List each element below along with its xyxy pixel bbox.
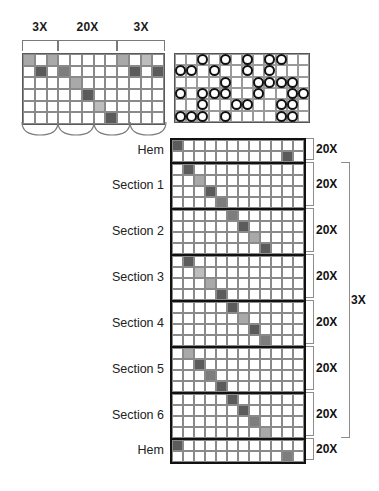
- circle-icon-r6-c10: [276, 111, 287, 122]
- swatch-cell-r2-c11: [141, 66, 153, 78]
- repeat-label-8: 20X: [316, 442, 337, 456]
- chart-cell-b1-r2-c2: [183, 151, 194, 162]
- circle-empty-cell-r5-c1: [175, 99, 186, 110]
- circle-empty-cell-r1-c6: [231, 54, 242, 65]
- repeat-label-1: 20X: [316, 142, 337, 156]
- chart-cell-b2-r1-c12: [293, 164, 304, 175]
- circle-icon-r3-c5: [220, 77, 231, 88]
- chart-cell-b6-r4-c7: [238, 381, 249, 392]
- swatch-cell-r1-c9: [117, 54, 129, 66]
- chart-cell-b4-r1-c10: [271, 256, 282, 267]
- chart-cell-b7-r3-c8: [249, 416, 260, 427]
- chart-band-section-6: Section 6: [170, 392, 306, 438]
- circle-empty-cell-r4-c2: [186, 88, 197, 99]
- chart-cell-b5-r1-c9: [260, 302, 271, 313]
- swatch-cell-r1-c6: [82, 54, 94, 66]
- chart-cell-b6-r2-c10: [271, 359, 282, 370]
- chart-cell-b5-r4-c12: [293, 335, 304, 346]
- swatch-cell-r4-c10: [129, 89, 141, 101]
- chart-cell-b4-r3-c2: [183, 278, 194, 289]
- chart-cell-b2-r1-c2: [183, 164, 194, 175]
- chart-cell-b5-r3-c10: [271, 324, 282, 335]
- circle-empty-cell-r2-c8: [253, 65, 264, 76]
- chart-cell-b7-r2-c5: [216, 405, 227, 416]
- chart-cell-b6-r2-c3: [194, 359, 205, 370]
- chart-cell-b6-r1-c8: [249, 348, 260, 359]
- chart-cell-b4-r3-c3: [194, 278, 205, 289]
- chart-cell-b8-r1-c8: [249, 440, 260, 451]
- chart-cell-b5-r1-c8: [249, 302, 260, 313]
- chart-cell-b2-r1-c9: [260, 164, 271, 175]
- chart-cell-b7-r4-c3: [194, 427, 205, 438]
- swatch-bracket-label-1: 3X: [22, 20, 58, 34]
- circle-empty-cell-r3-c3: [197, 77, 208, 88]
- chart-band-section-1: Section 1: [170, 162, 306, 208]
- chart-cell-b4-r3-c1: [172, 278, 183, 289]
- chart-cell-b2-r1-c10: [271, 164, 282, 175]
- circle-icon-r2-c4: [209, 65, 220, 76]
- chart-cell-b5-r1-c11: [282, 302, 293, 313]
- chart-cell-b7-r4-c5: [216, 427, 227, 438]
- section-label-6: Section 5: [112, 363, 164, 376]
- chart-band-grid: [172, 440, 304, 462]
- circle-empty-cell-r1-c4: [209, 54, 220, 65]
- swatch-cell-r3-c8: [105, 77, 117, 89]
- repeat-bracket-8: [306, 438, 314, 460]
- chart-cell-b2-r1-c11: [282, 164, 293, 175]
- swatch-cell-r4-c6: [82, 89, 94, 101]
- chart-cell-b8-r1-c10: [271, 440, 282, 451]
- chart-cell-b7-r3-c3: [194, 416, 205, 427]
- circle-icon-r6-c3: [197, 111, 208, 122]
- section-label-1: Hem: [138, 144, 164, 157]
- chart-cell-b4-r4-c12: [293, 289, 304, 300]
- chart-cell-b1-r1-c4: [205, 140, 216, 151]
- chart-cell-b6-r4-c1: [172, 381, 183, 392]
- chart-cell-b4-r3-c8: [249, 278, 260, 289]
- circle-icon-r5-c3: [197, 99, 208, 110]
- chart-cell-b2-r4-c3: [194, 197, 205, 208]
- chart-cell-b3-r1-c10: [271, 210, 282, 221]
- chart-cell-b4-r2-c10: [271, 267, 282, 278]
- chart-cell-b5-r4-c6: [227, 335, 238, 346]
- chart-cell-b4-r1-c1: [172, 256, 183, 267]
- circle-icon-r6-c5: [220, 111, 231, 122]
- chart-cell-b6-r2-c6: [227, 359, 238, 370]
- chart-cell-b2-r4-c2: [183, 197, 194, 208]
- chart-cell-b3-r3-c1: [172, 232, 183, 243]
- chart-cell-b1-r2-c1: [172, 151, 183, 162]
- chart-cell-b4-r1-c8: [249, 256, 260, 267]
- chart-cell-b7-r3-c1: [172, 416, 183, 427]
- swatch-bracket-label-2: 20X: [58, 20, 118, 34]
- chart-cell-b1-r2-c11: [282, 151, 293, 162]
- chart-cell-b1-r2-c10: [271, 151, 282, 162]
- circle-icon-r6-c11: [287, 111, 298, 122]
- chart-cell-b7-r4-c10: [271, 427, 282, 438]
- chart-cell-b4-r1-c5: [216, 256, 227, 267]
- chart-cell-b4-r4-c7: [238, 289, 249, 300]
- chart-cell-b8-r2-c7: [238, 451, 249, 462]
- chart-cell-b7-r3-c9: [260, 416, 271, 427]
- chart-cell-b8-r1-c7: [238, 440, 249, 451]
- chart-cell-b4-r3-c4: [205, 278, 216, 289]
- circle-empty-cell-r1-c1: [175, 54, 186, 65]
- chart-cell-b4-r3-c9: [260, 278, 271, 289]
- chart-cell-b2-r2-c3: [194, 175, 205, 186]
- chart-cell-b3-r3-c11: [282, 232, 293, 243]
- chart-cell-b6-r3-c2: [183, 370, 194, 381]
- chart-cell-b2-r1-c8: [249, 164, 260, 175]
- chart-cell-b1-r1-c10: [271, 140, 282, 151]
- chart-cell-b2-r4-c7: [238, 197, 249, 208]
- chart-band-hem: Hem: [170, 138, 306, 162]
- chart-cell-b4-r1-c2: [183, 256, 194, 267]
- chart-cell-b3-r4-c9: [260, 243, 271, 254]
- chart-cell-b2-r4-c11: [282, 197, 293, 208]
- chart-cell-b2-r4-c4: [205, 197, 216, 208]
- circle-icon-r4-c8: [253, 88, 264, 99]
- chart-cell-b7-r2-c2: [183, 405, 194, 416]
- repeat-label-4: 20X: [316, 269, 337, 283]
- swatch-cell-r4-c8: [105, 89, 117, 101]
- chart-cell-b6-r1-c10: [271, 348, 282, 359]
- chart-cell-b6-r2-c1: [172, 359, 183, 370]
- chart-cell-b7-r2-c6: [227, 405, 238, 416]
- outer-repeat-bracket: [341, 162, 350, 438]
